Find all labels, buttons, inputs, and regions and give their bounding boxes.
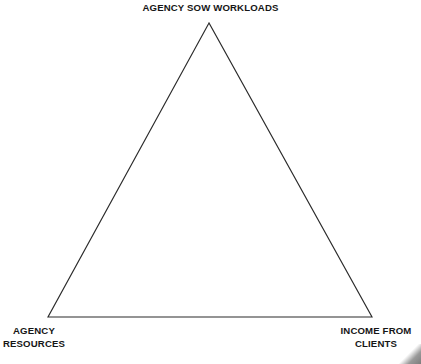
triangle-outline <box>48 23 372 317</box>
vertex-label-bottom-right: INCOME FROM CLIENTS <box>334 325 418 350</box>
vertex-label-bottom-left-line2: RESOURCES <box>0 338 68 351</box>
vertex-label-bottom-right-line1: INCOME FROM <box>334 325 418 338</box>
vertex-label-bottom-left: AGENCY RESOURCES <box>0 325 68 350</box>
vertex-label-top-line1: AGENCY SOW WORKLOADS <box>0 2 421 15</box>
vertex-label-bottom-right-line2: CLIENTS <box>334 338 418 351</box>
diagram-canvas: AGENCY SOW WORKLOADS AGENCY RESOURCES IN… <box>0 0 421 364</box>
vertex-label-top: AGENCY SOW WORKLOADS <box>0 2 421 15</box>
vertex-label-bottom-left-line1: AGENCY <box>0 325 68 338</box>
triangle-shape <box>0 0 421 364</box>
